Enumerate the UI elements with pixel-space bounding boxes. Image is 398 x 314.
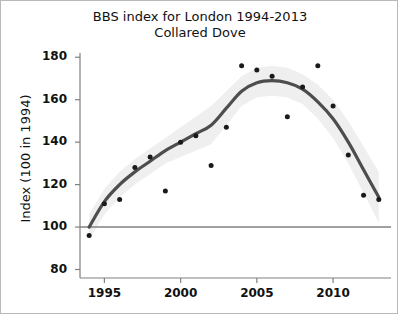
data-point	[270, 74, 275, 79]
data-point	[132, 165, 137, 170]
x-axis-tick-label: 1995	[82, 286, 126, 300]
y-axis-tick-label: 100	[33, 219, 67, 233]
data-point	[117, 197, 122, 202]
data-point	[163, 188, 168, 193]
confidence-band	[89, 66, 379, 240]
data-point	[209, 163, 214, 168]
data-point	[102, 201, 107, 206]
data-point	[361, 193, 366, 198]
data-point	[376, 197, 381, 202]
data-point	[346, 152, 351, 157]
data-point	[239, 63, 244, 68]
data-point	[148, 155, 153, 160]
data-point	[331, 104, 336, 109]
data-point	[300, 84, 305, 89]
data-point	[87, 233, 92, 238]
data-point	[178, 140, 183, 145]
x-axis-tick-label: 2005	[235, 286, 279, 300]
y-axis-tick-label: 180	[33, 49, 67, 63]
y-axis-tick-label: 120	[33, 177, 67, 191]
data-point	[254, 67, 259, 72]
data-point	[224, 125, 229, 130]
y-axis-tick-label: 160	[33, 92, 67, 106]
chart-figure: BBS index for London 1994-2013 Collared …	[0, 0, 398, 314]
y-axis-tick-label: 80	[33, 262, 67, 276]
data-point	[285, 114, 290, 119]
data-point	[193, 133, 198, 138]
x-axis-tick-label: 2000	[159, 286, 203, 300]
data-point	[315, 63, 320, 68]
x-axis-tick-label: 2010	[311, 286, 355, 300]
y-axis-tick-label: 140	[33, 134, 67, 148]
